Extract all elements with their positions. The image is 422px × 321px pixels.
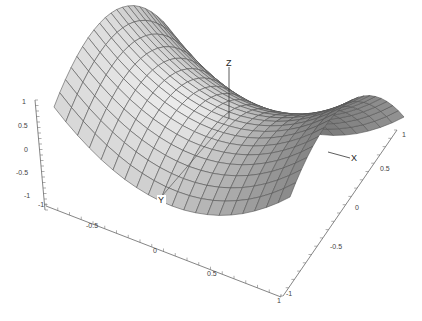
z-tick-1: 1	[22, 98, 26, 105]
z-tick-0.5: 0.5	[18, 122, 28, 129]
x-tick-1: 1	[402, 131, 406, 138]
x-tick--1: -1	[286, 290, 292, 297]
y-tick-1: 1	[277, 297, 281, 304]
surface-plot: 1 0.5 0 -0.5 -1 -1 -0.5 0 0.5 1 1 0.5 0 …	[0, 0, 422, 321]
x-tick-0: 0	[355, 204, 359, 211]
y-tick-0: 0	[153, 247, 157, 254]
y-tick-0.5: 0.5	[207, 270, 217, 277]
x-axis-label: X	[351, 153, 357, 163]
y-tick--0.5: -0.5	[86, 222, 98, 229]
z-tick--0.5: -0.5	[16, 169, 28, 176]
y-axis-frame: -1 -0.5 0 0.5 1	[38, 201, 281, 304]
z-axis-frame: 1 0.5 0 -0.5 -1	[16, 98, 45, 210]
z-tick--1: -1	[24, 192, 30, 199]
z-axis-label: Z	[226, 58, 232, 68]
z-tick-0: 0	[24, 146, 28, 153]
y-axis-label: Y	[158, 195, 164, 205]
y-tick--1: -1	[38, 201, 44, 208]
x-tick-0.5: 0.5	[380, 165, 390, 172]
x-tick--0.5: -0.5	[330, 243, 342, 250]
